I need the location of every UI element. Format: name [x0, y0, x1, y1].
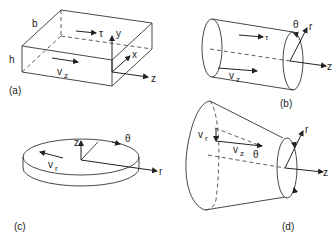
- z-axis-arrow-icon: [285, 168, 323, 172]
- svg-text:r: r: [55, 164, 58, 173]
- label-theta: θ: [293, 19, 299, 30]
- label-y: y: [116, 28, 121, 39]
- shear-arrow-icon: [76, 31, 96, 33]
- label-z: z: [74, 137, 79, 148]
- r-axis-arrow-icon: [81, 160, 157, 171]
- label-x: x: [132, 49, 137, 60]
- z-axis-arrow-icon: [112, 72, 148, 77]
- panel-a-slab: b h τ y x z v z (a): [9, 10, 156, 96]
- theta-arrow-icon: [293, 32, 297, 37]
- velocity-arrow-icon: [40, 152, 63, 158]
- label-vz: v: [57, 66, 62, 77]
- label-r: r: [159, 166, 163, 177]
- caption-a: (a): [9, 85, 21, 96]
- r-axis-arrow-icon: [290, 28, 307, 61]
- z-axis-arrow-icon: [290, 61, 326, 66]
- panel-d-cone: v r v z θ r z (d): [186, 101, 328, 232]
- panel-c-disk: z θ r v r (c): [14, 133, 163, 232]
- label-r: r: [309, 21, 313, 32]
- label-theta: θ: [253, 149, 259, 160]
- shear-arrow-icon: [239, 35, 263, 37]
- label-z: z: [323, 167, 328, 178]
- label-vz: v: [229, 70, 234, 81]
- caption-d: (d): [282, 221, 294, 232]
- r-axis-arrow-icon: [285, 131, 303, 168]
- label-vr: v: [48, 159, 53, 170]
- velocity-arrow-icon: [52, 58, 78, 62]
- svg-text:z: z: [64, 71, 68, 80]
- flow-geometries-diagram: b h τ y x z v z (a) τ θ r z v z (b): [0, 0, 335, 239]
- label-r: r: [305, 124, 309, 135]
- svg-text:z: z: [236, 75, 240, 84]
- label-vz: v: [233, 144, 238, 155]
- svg-text:z: z: [240, 149, 244, 158]
- velocity-arrow-icon: [218, 68, 257, 71]
- label-tau: τ: [265, 33, 269, 42]
- caption-b: (b): [280, 98, 292, 109]
- label-z: z: [327, 61, 332, 72]
- theta-arrow-icon: [294, 188, 295, 192]
- label-z: z: [151, 73, 156, 84]
- panel-b-cylinder: τ θ r z v z (b): [202, 19, 332, 109]
- label-tau: τ: [99, 28, 103, 39]
- label-vr: v: [198, 129, 203, 140]
- svg-text:r: r: [205, 134, 208, 143]
- caption-c: (c): [14, 221, 26, 232]
- label-theta: θ: [125, 133, 131, 144]
- label-b: b: [32, 18, 38, 29]
- x-axis-arrow-icon: [112, 56, 130, 72]
- label-h: h: [9, 54, 15, 65]
